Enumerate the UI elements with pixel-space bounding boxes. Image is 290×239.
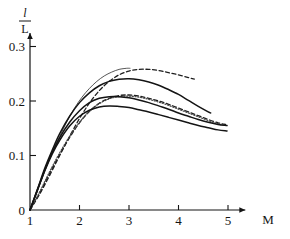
x-axis-label: M [262,212,274,227]
x-tick-label: 2 [76,213,83,228]
y-axis-label-denominator: L [21,22,28,36]
y-tick-label: 0.3 [9,39,25,54]
chart-figure: l L M 1234500.10.20.3 [0,0,290,239]
x-tick-label: 3 [126,213,133,228]
y-tick-label: 0.2 [9,94,25,109]
x-tick-label: 1 [27,213,34,228]
y-tick-label: 0 [19,203,26,218]
line-chart: l L M 1234500.10.20.3 [0,0,290,239]
x-tick-label: 4 [175,213,182,228]
chart-series-line [30,106,227,210]
y-axis-label: l L [19,6,31,36]
tick-labels-layer: 1234500.10.20.3 [9,39,232,228]
chart-series-line [30,96,226,210]
y-tick-label: 0.1 [9,148,25,163]
chart-series-line [30,68,130,210]
curves-layer [30,68,227,210]
y-axis-label-numerator: l [23,6,27,20]
x-tick-label: 5 [225,213,232,228]
x-axis-arrow [239,207,245,213]
